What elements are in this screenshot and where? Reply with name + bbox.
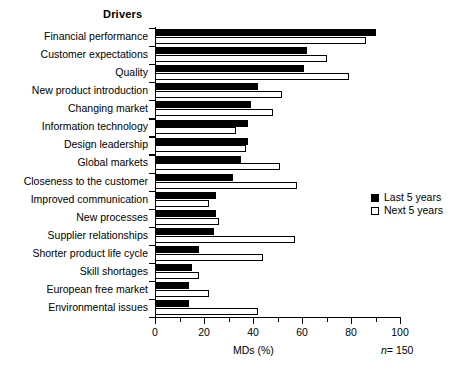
category-label: New product introduction xyxy=(7,85,155,96)
bar-last-5-years xyxy=(155,192,216,199)
x-axis-tick-major xyxy=(155,318,156,324)
bar-group xyxy=(155,173,400,191)
bar-group xyxy=(155,191,400,209)
y-axis-tick xyxy=(149,154,155,155)
category-label: Closeness to the customer xyxy=(7,176,155,187)
y-axis-tick xyxy=(149,263,155,264)
y-axis-tick xyxy=(149,136,155,137)
legend-item: Last 5 years xyxy=(371,191,443,204)
bar-last-5-years xyxy=(155,156,241,163)
x-axis-tick-major xyxy=(253,318,254,324)
bar-last-5-years xyxy=(155,264,192,271)
bar-last-5-years xyxy=(155,228,214,235)
category-label: Financial performance xyxy=(7,31,155,42)
bar-group xyxy=(155,299,400,317)
x-axis-tick-label: 40 xyxy=(247,326,259,338)
bar-last-5-years xyxy=(155,282,189,289)
bar-group xyxy=(155,263,400,281)
category-label: Skill shortages xyxy=(7,266,155,277)
bar-group xyxy=(155,28,400,46)
sample-size-value: = 150 xyxy=(387,344,414,356)
y-axis-tick xyxy=(149,281,155,282)
category-label: Global markets xyxy=(7,157,155,168)
y-axis-tick xyxy=(149,173,155,174)
sample-size-annotation: n= 150 xyxy=(381,344,413,356)
y-axis-tick xyxy=(149,46,155,47)
y-axis-tick xyxy=(149,64,155,65)
chart-figure: Drivers Financial performanceCustomer ex… xyxy=(0,0,465,375)
chart-title: Drivers xyxy=(103,8,142,20)
legend-label: Last 5 years xyxy=(384,191,441,204)
y-axis-tick xyxy=(149,118,155,119)
bar-last-5-years xyxy=(155,174,233,181)
bar-next-5-years xyxy=(155,109,273,116)
y-axis-tick xyxy=(149,227,155,228)
bar-last-5-years xyxy=(155,120,248,127)
bar-next-5-years xyxy=(155,254,263,261)
bar-next-5-years xyxy=(155,145,246,152)
category-label: Shorter product life cycle xyxy=(7,248,155,259)
legend: Last 5 yearsNext 5 years xyxy=(371,191,443,217)
legend-item: Next 5 years xyxy=(371,204,443,217)
bar-group xyxy=(155,100,400,118)
legend-swatch-last-5-years xyxy=(371,194,379,202)
x-axis-tick-label: 60 xyxy=(296,326,308,338)
bar-next-5-years xyxy=(155,37,366,44)
category-label: Quality xyxy=(7,67,155,78)
y-axis-tick xyxy=(149,209,155,210)
category-label: Environmental issues xyxy=(7,302,155,313)
bar-group xyxy=(155,136,400,154)
y-axis-tick xyxy=(149,100,155,101)
bar-last-5-years xyxy=(155,210,216,217)
x-axis-tick-major xyxy=(400,318,401,324)
bar-next-5-years xyxy=(155,73,349,80)
x-axis-title: MDs (%) xyxy=(233,344,274,356)
bar-last-5-years xyxy=(155,300,189,307)
bar-next-5-years xyxy=(155,55,327,62)
bar-next-5-years xyxy=(155,308,258,315)
bar-next-5-years xyxy=(155,200,209,207)
bar-last-5-years xyxy=(155,47,307,54)
y-axis-tick xyxy=(149,299,155,300)
bar-last-5-years xyxy=(155,83,258,90)
bar-last-5-years xyxy=(155,29,376,36)
bar-next-5-years xyxy=(155,182,297,189)
y-axis-tick xyxy=(149,191,155,192)
x-axis-tick-label: 100 xyxy=(391,326,409,338)
x-axis-tick-minor xyxy=(327,318,328,322)
legend-label: Next 5 years xyxy=(384,204,443,217)
bar-group xyxy=(155,118,400,136)
x-axis-tick-minor xyxy=(278,318,279,322)
bar-next-5-years xyxy=(155,236,295,243)
bar-group xyxy=(155,64,400,82)
bar-group xyxy=(155,46,400,64)
legend-swatch-next-5-years xyxy=(371,207,379,215)
bar-next-5-years xyxy=(155,127,236,134)
y-axis-tick xyxy=(149,82,155,83)
category-label: Design leadership xyxy=(7,139,155,150)
bar-next-5-years xyxy=(155,91,282,98)
bar-last-5-years xyxy=(155,65,304,72)
category-label-column: Financial performanceCustomer expectatio… xyxy=(0,28,155,317)
bar-group xyxy=(155,245,400,263)
y-axis-tick xyxy=(149,245,155,246)
x-axis-tick-label: 80 xyxy=(345,326,357,338)
bar-next-5-years xyxy=(155,218,219,225)
x-axis-tick-label: 0 xyxy=(152,326,158,338)
x-axis-tick-minor xyxy=(180,318,181,322)
bar-group xyxy=(155,82,400,100)
bar-group xyxy=(155,281,400,299)
bar-last-5-years xyxy=(155,246,199,253)
plot-area xyxy=(155,28,400,317)
x-axis-tick-label: 20 xyxy=(198,326,210,338)
x-axis-tick-major xyxy=(351,318,352,324)
bar-last-5-years xyxy=(155,138,248,145)
x-axis-tick-minor xyxy=(376,318,377,322)
category-label: European free market xyxy=(7,284,155,295)
category-label: Information technology xyxy=(7,121,155,132)
x-axis-tick-major xyxy=(204,318,205,324)
bar-last-5-years xyxy=(155,101,251,108)
category-label: Customer expectations xyxy=(7,49,155,60)
category-label: Improved communication xyxy=(7,194,155,205)
y-axis-tick xyxy=(149,28,155,29)
